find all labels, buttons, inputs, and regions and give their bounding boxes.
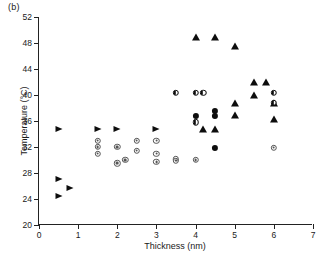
data-point-triangle-up (231, 111, 239, 118)
data-points-layer (39, 17, 312, 224)
data-point-circle-dot (95, 144, 101, 150)
data-point-circle-dot (153, 137, 159, 143)
data-point-triangle-up (250, 79, 258, 86)
data-point-circle-dot (153, 150, 159, 156)
x-tick (235, 224, 236, 229)
x-tick-label: 2 (115, 231, 120, 240)
data-point-triangle-up (211, 126, 219, 133)
data-point-circle-half (192, 119, 198, 125)
data-point-circle-half (271, 90, 277, 96)
data-point-circle-filled (192, 113, 198, 119)
x-tick (117, 224, 118, 229)
x-tick-label: 3 (154, 231, 159, 240)
y-tick-label: 48 (23, 39, 32, 48)
x-tick (39, 224, 40, 229)
data-point-circle-half (200, 90, 206, 96)
data-point-circle-dot (122, 157, 128, 163)
y-tick-label: 32 (23, 143, 32, 152)
data-point-circle-filled (212, 113, 218, 119)
panel-label: (b) (8, 2, 20, 12)
x-tick-label: 0 (37, 231, 42, 240)
x-tick (313, 224, 314, 229)
data-point-triangle-right (55, 126, 62, 132)
y-tick-label: 52 (23, 13, 32, 22)
data-point-triangle-right (94, 126, 101, 132)
data-point-circle-half (173, 90, 179, 96)
x-tick-label: 4 (193, 231, 198, 240)
data-point-circle-dot (192, 157, 198, 163)
data-point-triangle-up (250, 92, 258, 99)
data-point-triangle-up (199, 126, 207, 133)
data-point-triangle-right (67, 185, 74, 191)
x-tick (274, 224, 275, 229)
y-tick-label: 36 (23, 117, 32, 126)
y-tick-label: 20 (23, 221, 32, 230)
data-point-circle-half (192, 90, 198, 96)
data-point-triangle-right (55, 193, 62, 199)
x-tick (156, 224, 157, 229)
x-tick-label: 5 (232, 231, 237, 240)
data-point-circle-dot (153, 159, 159, 165)
data-point-circle-dot (95, 150, 101, 156)
data-point-circle-dot (271, 144, 277, 150)
data-point-triangle-up (192, 33, 200, 40)
data-point-circle-dot (95, 137, 101, 143)
data-point-triangle-up (270, 116, 278, 123)
data-point-circle-dot (134, 148, 140, 154)
y-tick-label: 44 (23, 65, 32, 74)
data-point-circle-dot (114, 144, 120, 150)
data-point-triangle-right (114, 126, 121, 132)
x-tick-label: 1 (76, 231, 81, 240)
y-tick-label: 28 (23, 169, 32, 178)
scatter-figure: (b) Temperature (°C) 202428323640444852 … (0, 0, 324, 263)
data-point-circle-dot (134, 137, 140, 143)
plot-area: 202428323640444852 01234567 (38, 17, 312, 225)
data-point-triangle-right (153, 126, 160, 132)
data-point-triangle-up (211, 33, 219, 40)
x-tick-label: 6 (271, 231, 276, 240)
x-tick-label: 7 (311, 231, 316, 240)
data-point-triangle-right (55, 176, 62, 182)
x-tick (78, 224, 79, 229)
data-point-circle-dot (114, 160, 120, 166)
data-point-triangle-up (231, 99, 239, 106)
x-tick (196, 224, 197, 229)
y-tick-label: 40 (23, 91, 32, 100)
data-point-triangle-up (231, 43, 239, 50)
data-point-circle-filled (212, 145, 218, 151)
data-point-circle-dot (173, 157, 179, 163)
x-axis-title: Thickness (nm) (38, 241, 312, 251)
data-point-triangle-up (262, 79, 270, 86)
y-tick-label: 24 (23, 195, 32, 204)
